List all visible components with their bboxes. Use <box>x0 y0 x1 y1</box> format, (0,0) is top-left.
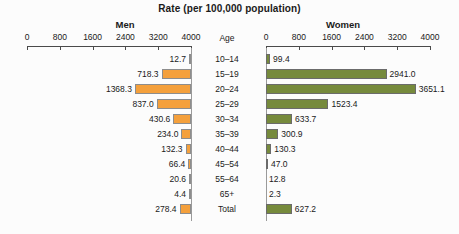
bar-women <box>266 84 416 94</box>
axis-tick-label: 800 <box>292 32 306 42</box>
bar-men <box>135 84 191 94</box>
value-label-women: 99.4 <box>273 53 290 65</box>
axis-tick-mark <box>27 46 28 50</box>
chart-row: 132.340–44130.3 <box>0 142 459 157</box>
axis-tick-mark <box>93 46 94 50</box>
bar-men <box>173 114 191 124</box>
axis-tick-mark <box>299 46 300 50</box>
axis-tick-mark <box>364 46 365 50</box>
value-label-men: 12.7 <box>169 53 186 65</box>
axis-tick-label: 2400 <box>355 32 374 42</box>
bar-women <box>266 144 271 154</box>
age-group-label: 45–54 <box>196 158 258 170</box>
age-group-label: 20–24 <box>196 83 258 95</box>
value-label-men: 132.3 <box>161 143 182 155</box>
value-label-men: 837.0 <box>132 98 153 110</box>
age-group-label: 25–29 <box>196 98 258 110</box>
value-label-women: 300.9 <box>281 128 302 140</box>
value-label-women: 12.8 <box>269 173 286 185</box>
age-group-label: 55–64 <box>196 173 258 185</box>
chart-row: 1368.320–243651.1 <box>0 82 459 97</box>
bar-men <box>188 159 191 169</box>
axis-line-women <box>266 46 430 47</box>
bar-men <box>157 99 191 109</box>
value-label-women: 47.0 <box>271 158 288 170</box>
chart-title: Rate (per 100,000 population) <box>0 3 459 14</box>
value-label-women: 2941.0 <box>390 68 416 80</box>
chart-row: 430.630–34633.7 <box>0 112 459 127</box>
bar-women <box>266 204 292 214</box>
value-label-women: 2.3 <box>269 188 281 200</box>
value-label-women: 1523.4 <box>331 98 357 110</box>
value-label-men: 20.6 <box>169 173 186 185</box>
axis-tick-labels-women: 08001600240032004000 <box>0 32 459 44</box>
age-group-label: 35–39 <box>196 128 258 140</box>
value-label-women: 130.3 <box>274 143 295 155</box>
chart-row: 66.445–5447.0 <box>0 157 459 172</box>
value-label-men: 234.0 <box>157 128 178 140</box>
value-label-men: 430.6 <box>149 113 170 125</box>
age-group-label: Total <box>196 203 258 215</box>
bar-men <box>189 54 191 64</box>
chart-row: 718.315–192941.0 <box>0 67 459 82</box>
bar-men <box>186 144 191 154</box>
value-label-women: 3651.1 <box>419 83 445 95</box>
axis-tick-label: 4000 <box>421 32 440 42</box>
bar-women <box>266 114 292 124</box>
value-label-men: 718.3 <box>137 68 158 80</box>
bar-women <box>266 99 328 109</box>
age-group-label: 10–14 <box>196 53 258 65</box>
axis-tick-label: 0 <box>264 32 269 42</box>
axis-tick-label: 3200 <box>388 32 407 42</box>
axis-tick-mark <box>430 46 431 50</box>
age-group-label: 40–44 <box>196 143 258 155</box>
axis-tick-mark <box>125 46 126 50</box>
bar-women <box>266 69 387 79</box>
value-label-men: 1368.3 <box>106 83 132 95</box>
axis-tick-mark <box>158 46 159 50</box>
chart-row: 837.025–291523.4 <box>0 97 459 112</box>
value-label-men: 278.4 <box>155 203 176 215</box>
bar-men <box>181 129 191 139</box>
population-pyramid-chart: Rate (per 100,000 population) Men Women … <box>0 0 459 234</box>
panel-header-men: Men <box>60 19 190 30</box>
age-group-label: 65+ <box>196 188 258 200</box>
bar-men <box>180 204 191 214</box>
axis-tick-mark <box>60 46 61 50</box>
chart-row: 4.465+2.3 <box>0 187 459 202</box>
bar-men <box>162 69 191 79</box>
value-label-women: 627.2 <box>295 203 316 215</box>
chart-row: 234.035–39300.9 <box>0 127 459 142</box>
chart-row: 20.655–6412.8 <box>0 172 459 187</box>
bar-men <box>189 189 191 199</box>
panel-header-women: Women <box>278 19 408 30</box>
axis-tick-mark <box>332 46 333 50</box>
chart-row: 12.710–1499.4 <box>0 52 459 67</box>
value-label-men: 4.4 <box>174 188 186 200</box>
bar-men <box>189 174 191 184</box>
value-label-men: 66.4 <box>169 158 186 170</box>
bar-women <box>266 54 270 64</box>
age-group-label: 15–19 <box>196 68 258 80</box>
axis-tick-mark <box>397 46 398 50</box>
axis-line-men <box>27 46 191 47</box>
bar-women <box>266 159 268 169</box>
value-label-women: 633.7 <box>295 113 316 125</box>
age-group-label: 30–34 <box>196 113 258 125</box>
axis-tick-label: 1600 <box>322 32 341 42</box>
chart-row: 278.4Total627.2 <box>0 202 459 217</box>
bar-women <box>266 129 278 139</box>
